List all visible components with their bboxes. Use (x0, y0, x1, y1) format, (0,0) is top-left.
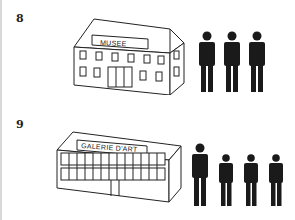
art-gallery-building-icon: GALERIE D'ART (55, 128, 185, 203)
page-edge (0, 0, 2, 220)
people-group-icon (195, 28, 275, 98)
item-number-9: 9 (16, 118, 24, 131)
museum-building-icon: MUSEE (70, 15, 190, 95)
museum-sign: MUSEE (100, 39, 127, 47)
item-number-8: 8 (16, 12, 24, 25)
people-group-icon (190, 142, 290, 212)
